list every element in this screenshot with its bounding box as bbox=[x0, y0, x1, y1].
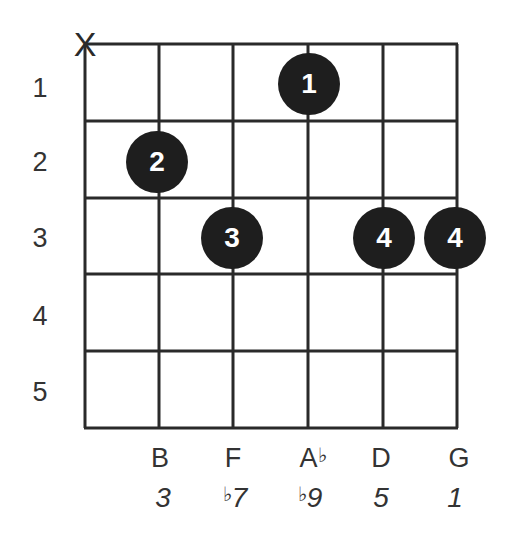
note-label-a-flat: A♭ bbox=[299, 443, 326, 474]
finger-dot-3: 3 bbox=[201, 207, 263, 269]
finger-dot-4b: 4 bbox=[424, 207, 486, 269]
interval-label-5: 5 bbox=[373, 482, 389, 514]
finger-dot-4a: 4 bbox=[353, 207, 415, 269]
interval-label-flat9: ♭9 bbox=[298, 482, 323, 514]
finger-dot-1: 1 bbox=[278, 53, 340, 115]
fret-number-5: 5 bbox=[20, 377, 60, 408]
interval-label-1: 1 bbox=[447, 482, 463, 514]
fretboard-grid bbox=[0, 0, 516, 546]
note-label-d: D bbox=[371, 443, 391, 474]
note-label-b: B bbox=[151, 443, 169, 474]
interval-label-flat7: ♭7 bbox=[223, 482, 248, 514]
fret-number-2: 2 bbox=[20, 147, 60, 178]
note-label-g: G bbox=[448, 443, 469, 474]
fret-number-4: 4 bbox=[20, 301, 60, 332]
interval-label-3: 3 bbox=[155, 482, 171, 514]
fret-number-3: 3 bbox=[20, 223, 60, 254]
fret-number-1: 1 bbox=[20, 73, 60, 104]
note-label-f: F bbox=[225, 443, 242, 474]
muted-string-marker: X bbox=[74, 27, 97, 61]
finger-dot-2: 2 bbox=[126, 131, 188, 193]
